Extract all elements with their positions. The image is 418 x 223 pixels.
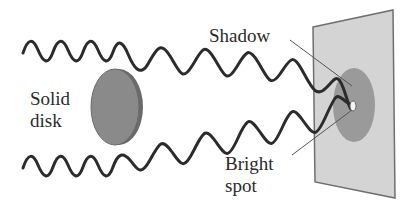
diffraction-diagram: Solid disk Shadow Bright spot [0, 0, 418, 223]
incoming-wave-top [23, 41, 352, 109]
incoming-wave-bottom [23, 97, 352, 176]
disk-label-line1: Solid [30, 88, 70, 109]
bright-spot [350, 101, 356, 111]
solid-disk [91, 69, 139, 145]
bright-spot-label-line1: Bright [225, 153, 274, 174]
bright-spot-label-line2: spot [225, 175, 257, 196]
shadow-label: Shadow [209, 25, 270, 46]
disk-label-line2: disk [30, 110, 62, 131]
